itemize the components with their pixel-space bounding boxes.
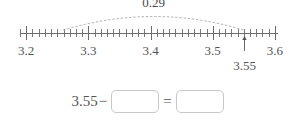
equals-sign: =: [162, 93, 172, 110]
axis-tick-label: 3.2: [18, 44, 34, 57]
worksheet-root: 3.23.33.43.53.60.293.55 3.55 − =: [0, 0, 298, 123]
equation-left-term: 3.55: [71, 93, 97, 110]
answer-input-1[interactable]: [111, 90, 159, 113]
pointer-value-label: 3.55: [233, 59, 256, 72]
axis-tick-label: 3.3: [80, 44, 96, 57]
equation-row: 3.55 − =: [0, 80, 298, 123]
number-line-figure: 3.23.33.43.53.60.293.55: [0, 0, 298, 72]
answer-input-2[interactable]: [176, 90, 224, 113]
span-value-label: 0.29: [140, 0, 167, 9]
minus-sign: −: [98, 93, 108, 110]
axis-tick-label: 3.6: [267, 44, 283, 57]
axis-tick-label: 3.5: [205, 44, 221, 57]
axis-tick-label: 3.4: [142, 44, 158, 57]
